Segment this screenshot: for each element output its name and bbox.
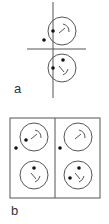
panel-b-dot-2	[32, 166, 36, 170]
panel-a-face-stroke-0	[59, 28, 65, 33]
panel-b-face-circle-3	[64, 161, 92, 189]
panel-b-dot-1	[24, 138, 28, 142]
panel-b-face-stroke-3	[75, 173, 80, 179]
panel-b-face-stroke-0	[31, 134, 37, 139]
panel-a-dot-0	[42, 38, 46, 42]
panel-b-label: b	[11, 204, 18, 217]
panel-b-dot-5	[68, 176, 72, 180]
panel-a-face-arc-0	[63, 24, 69, 32]
panel-a-label: a	[14, 82, 21, 95]
panel-b-dot-3	[58, 146, 62, 150]
panel-a-dot-1	[51, 29, 55, 33]
panel-a-dot-3	[61, 58, 65, 62]
panel-b-dot-0	[14, 146, 18, 150]
panel-a-face-stroke-1	[59, 66, 64, 72]
panel-a-dot-2	[51, 66, 55, 70]
panel-b-face-stroke-2	[75, 134, 81, 139]
panel-b-dot-4	[77, 166, 81, 170]
panel-b-face-arc-2	[79, 130, 85, 138]
panel-b-face-arc-0	[35, 130, 41, 138]
figure-canvas	[0, 0, 109, 224]
panel-b-face-stroke-1	[31, 173, 36, 179]
panel-b-face-circle-1	[20, 161, 48, 189]
